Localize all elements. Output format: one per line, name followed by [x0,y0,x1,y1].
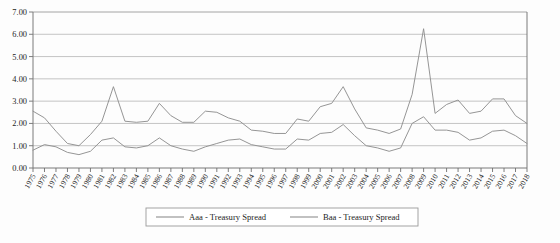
series-line-aaa [33,117,527,155]
legend-label-baa: Baa - Treasury Spread [323,212,400,222]
x-axis-tick-label: 2018 [516,172,531,190]
y-axis-tick-label: 6.00 [12,30,27,39]
spread-line-chart: 0.001.002.003.004.005.006.007.0019751976… [0,0,560,243]
y-axis-tick-label: 7.00 [12,8,27,17]
series-line-baa [33,29,527,146]
y-axis-tick-label: 2.00 [12,119,27,128]
chart-container: 0.001.002.003.004.005.006.007.0019751976… [0,0,560,243]
y-axis-tick-label: 0.00 [12,164,27,173]
legend: Aaa - Treasury SpreadBaa - Treasury Spre… [146,208,418,226]
series-group [33,29,527,155]
y-axis-tick-label: 4.00 [12,75,27,84]
y-axis-tick-label: 1.00 [12,142,27,151]
legend-label-aaa: Aaa - Treasury Spread [189,212,267,222]
y-axis-tick-label: 5.00 [12,53,27,62]
y-axis-tick-label: 3.00 [12,97,27,106]
x-axis-labels: 1975197619771978197919801981198219831984… [22,168,531,190]
